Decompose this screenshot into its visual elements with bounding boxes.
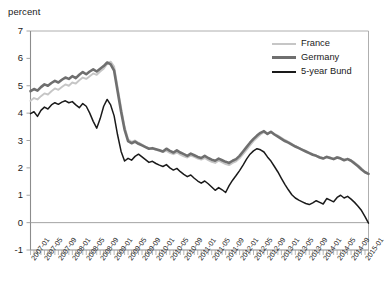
y-axis-tick-label: 1 <box>5 190 23 200</box>
legend-swatch-france <box>272 43 296 45</box>
chart-legend: FranceGermany5-year Bund <box>272 38 352 77</box>
y-axis-tick-label: 5 <box>5 81 23 91</box>
y-axis-tick-label: 0 <box>5 218 23 228</box>
legend-item-germany[interactable]: Germany <box>272 52 352 63</box>
y-axis-tick-label: 4 <box>5 108 23 118</box>
legend-item-france[interactable]: France <box>272 38 352 49</box>
legend-label-france: France <box>301 39 330 48</box>
y-axis-tick-label: 7 <box>5 26 23 36</box>
y-axis-tick-label: 3 <box>5 136 23 146</box>
legend-swatch-germany <box>272 56 296 59</box>
legend-label-bund: 5-year Bund <box>301 67 352 76</box>
y-axis-tick-label: 6 <box>5 53 23 63</box>
series-line-5-year-bund <box>31 99 369 223</box>
legend-swatch-bund <box>272 71 296 73</box>
legend-item-bund[interactable]: 5-year Bund <box>272 66 352 77</box>
legend-label-germany: Germany <box>301 53 339 62</box>
y-axis-tick-label: 2 <box>5 163 23 173</box>
y-axis-tick-label: -1 <box>5 245 23 255</box>
